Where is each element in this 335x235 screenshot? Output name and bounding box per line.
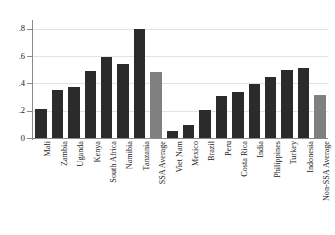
bars-container <box>33 22 328 138</box>
x-axis-label: Mali <box>44 141 52 156</box>
x-axis-label: Tanzania <box>143 141 151 170</box>
x-axis-label-text: Zambia <box>61 141 69 166</box>
x-axis-label: Non-SSA Average <box>323 141 331 201</box>
x-axis-label-text: Peru <box>225 141 233 156</box>
bar <box>249 84 260 138</box>
x-axis-label: Zambia <box>61 141 69 166</box>
x-axis-label-text: Namibia <box>126 141 134 169</box>
x-axis-label-text: Non-SSA Average <box>323 141 331 201</box>
x-axis-label-text: Uganda <box>77 141 85 166</box>
bar <box>216 96 227 138</box>
x-axis-label: Peru <box>225 141 233 156</box>
x-axis-label-text: Turkey <box>290 141 298 164</box>
x-axis-label: Uganda <box>77 141 85 166</box>
y-axis-tick-label: .2 <box>19 106 25 115</box>
bar <box>314 95 325 138</box>
x-axis-label-text: Mexico <box>192 141 200 166</box>
y-axis-tick-label: 0 <box>21 134 25 143</box>
bar <box>232 92 243 138</box>
bar-chart: 0.2.4.6.8 MaliZambiaUgandaKenyaSouth Afr… <box>0 0 335 235</box>
x-axis-label-text: Kenya <box>94 141 102 162</box>
x-axis-label-text: Philippines <box>274 141 282 178</box>
x-axis-label: Viet Nam <box>176 141 184 173</box>
x-axis-label: India <box>257 141 265 158</box>
x-axis-label-text: Viet Nam <box>176 141 184 173</box>
bar <box>265 77 276 138</box>
bar <box>281 70 292 139</box>
bar <box>85 71 96 138</box>
x-axis-label: Mexico <box>192 141 200 166</box>
x-axis-labels: MaliZambiaUgandaKenyaSouth AfricaNamibia… <box>33 139 328 235</box>
bar <box>150 72 161 138</box>
x-axis-label-text: SSA Average <box>159 141 167 184</box>
y-axis-tick-label: .6 <box>19 52 25 61</box>
x-axis-label-text: Mali <box>44 141 52 156</box>
x-axis-label: SSA Average <box>159 141 167 184</box>
x-axis-label: Turkey <box>290 141 298 164</box>
x-axis-label: Brazil <box>208 141 216 161</box>
x-axis-label-text: Brazil <box>208 141 216 161</box>
x-axis-label-text: Indonesia <box>307 141 315 173</box>
x-axis-label: Namibia <box>126 141 134 169</box>
x-axis-label-text: Tanzania <box>143 141 151 170</box>
bar <box>298 68 309 138</box>
x-axis-label-text: Costa Rica <box>241 141 249 177</box>
bar <box>68 87 79 138</box>
x-axis-label-text: India <box>257 141 265 158</box>
bar <box>167 131 178 138</box>
bar <box>35 109 46 138</box>
bar <box>199 110 210 138</box>
bar <box>134 29 145 138</box>
bar <box>52 90 63 138</box>
y-axis-tick-label: .8 <box>19 24 25 33</box>
x-axis-label: Indonesia <box>307 141 315 173</box>
x-axis-label: Kenya <box>94 141 102 162</box>
bar <box>117 64 128 138</box>
bar <box>101 57 112 138</box>
y-axis-tick-label: .4 <box>19 79 25 88</box>
x-axis-label: Philippines <box>274 141 282 178</box>
x-axis-label: Costa Rica <box>241 141 249 177</box>
x-axis-label-text: South Africa <box>110 141 118 183</box>
bar <box>183 125 194 138</box>
x-axis-label: South Africa <box>110 141 118 183</box>
